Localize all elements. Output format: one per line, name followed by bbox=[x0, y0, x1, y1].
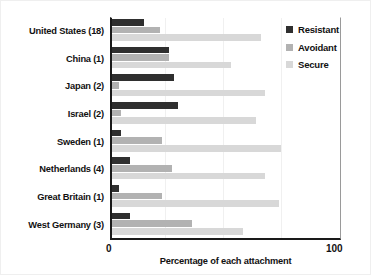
y-axis-label-7: West Germany (3) bbox=[0, 220, 104, 230]
y-axis-label-6: Great Britain (1) bbox=[0, 192, 104, 202]
y-axis-label-4: Sweden (1) bbox=[0, 137, 104, 147]
legend-label: Secure bbox=[298, 59, 329, 70]
bar-resistant-4 bbox=[112, 130, 121, 137]
bar-group bbox=[112, 101, 341, 127]
bar-resistant-5 bbox=[112, 157, 130, 164]
bar-avoidant-1 bbox=[112, 54, 169, 61]
x-tick-min: 0 bbox=[106, 243, 112, 254]
y-axis-label-5: Netherlands (4) bbox=[0, 164, 104, 174]
bar-group bbox=[112, 129, 341, 155]
bar-avoidant-0 bbox=[112, 27, 160, 34]
bar-group bbox=[112, 184, 341, 210]
attachment-bar-chart: United States (18)China (1)Japan (2)Isra… bbox=[0, 0, 371, 275]
bar-group bbox=[112, 73, 341, 99]
chart-legend: ResistantAvoidantSecure bbox=[286, 22, 339, 75]
bar-avoidant-7 bbox=[112, 220, 192, 227]
bar-resistant-3 bbox=[112, 102, 178, 109]
bar-avoidant-6 bbox=[112, 193, 162, 200]
bar-avoidant-3 bbox=[112, 110, 121, 117]
bar-resistant-6 bbox=[112, 185, 119, 192]
bar-secure-2 bbox=[112, 90, 265, 97]
bar-group bbox=[112, 212, 341, 238]
bar-resistant-7 bbox=[112, 213, 130, 220]
legend-item-secure[interactable]: Secure bbox=[286, 57, 339, 72]
y-axis-labels: United States (18)China (1)Japan (2)Isra… bbox=[0, 18, 104, 239]
y-axis-label-2: Japan (2) bbox=[0, 81, 104, 91]
bar-avoidant-2 bbox=[112, 82, 119, 89]
bar-resistant-2 bbox=[112, 74, 174, 81]
bar-secure-1 bbox=[112, 62, 231, 69]
bar-group bbox=[112, 156, 341, 182]
legend-swatch-icon bbox=[286, 26, 293, 33]
bar-secure-6 bbox=[112, 200, 279, 207]
bar-secure-5 bbox=[112, 173, 265, 180]
bar-secure-7 bbox=[112, 228, 243, 235]
legend-label: Avoidant bbox=[298, 42, 337, 53]
legend-item-avoidant[interactable]: Avoidant bbox=[286, 40, 339, 55]
bar-avoidant-5 bbox=[112, 165, 172, 172]
x-axis-title: Percentage of each attachment bbox=[110, 256, 341, 266]
bar-secure-0 bbox=[112, 34, 261, 41]
y-axis-label-1: China (1) bbox=[0, 54, 104, 64]
legend-swatch-icon bbox=[286, 44, 293, 51]
legend-item-resistant[interactable]: Resistant bbox=[286, 22, 339, 37]
bar-resistant-0 bbox=[112, 19, 144, 26]
bar-resistant-1 bbox=[112, 47, 169, 54]
bar-avoidant-4 bbox=[112, 137, 162, 144]
y-axis-label-0: United States (18) bbox=[0, 26, 104, 36]
legend-label: Resistant bbox=[298, 24, 339, 35]
bar-secure-3 bbox=[112, 117, 256, 124]
x-tick-max: 100 bbox=[326, 243, 343, 254]
y-axis-label-3: Israel (2) bbox=[0, 109, 104, 119]
bar-secure-4 bbox=[112, 145, 281, 152]
legend-swatch-icon bbox=[286, 61, 293, 68]
